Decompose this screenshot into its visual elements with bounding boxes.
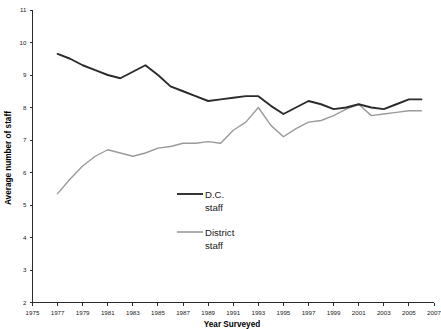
x-tick-label: 1981 [101,309,115,316]
x-tick-label: 1977 [51,309,65,316]
legend: D.C. staff District staff [177,189,235,251]
series-line-dc-staff [58,54,422,114]
y-tick-label: 2 [23,299,27,306]
x-axis-title: Year Surveyed [204,320,260,329]
x-axis-ticks: 1975197719791981198319851987198919911993… [26,303,441,316]
x-tick-label: 1989 [201,309,215,316]
x-tick-label: 1979 [76,309,90,316]
legend-label-dc-staff-line2: staff [205,202,223,213]
legend-label-district-staff-line2: staff [205,240,223,251]
y-tick-label: 8 [23,104,27,111]
series-line-district-staff [58,104,422,193]
y-tick-label: 11 [20,6,27,13]
x-tick-label: 1997 [302,309,316,316]
y-tick-label: 10 [20,39,27,46]
x-tick-label: 1999 [327,309,341,316]
x-tick-label: 2005 [402,309,416,316]
y-tick-label: 3 [23,266,27,273]
chart-canvas: Average number of staff 234567891011 197… [0,0,441,329]
y-tick-label: 5 [23,201,27,208]
legend-label-dc-staff-line1: D.C. [205,189,224,200]
x-tick-label: 1993 [251,309,265,316]
x-tick-label: 2001 [352,309,366,316]
y-axis-title: Average number of staff [4,111,13,205]
y-tick-label: 6 [23,169,27,176]
x-tick-label: 2007 [427,309,441,316]
x-tick-label: 1985 [151,309,165,316]
line-chart: Average number of staff 234567891011 197… [0,0,441,329]
y-tick-label: 9 [23,71,27,78]
legend-label-district-staff-line1: District [205,227,235,238]
y-axis-ticks: 234567891011 [20,6,33,306]
y-tick-label: 7 [23,136,27,143]
x-tick-label: 1995 [277,309,291,316]
x-tick-label: 1975 [26,309,40,316]
y-tick-label: 4 [23,234,27,241]
x-tick-label: 2003 [377,309,391,316]
x-tick-label: 1991 [226,309,240,316]
x-tick-label: 1983 [126,309,140,316]
x-tick-label: 1987 [176,309,190,316]
